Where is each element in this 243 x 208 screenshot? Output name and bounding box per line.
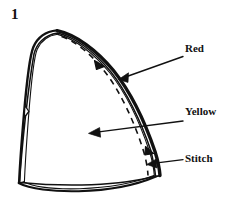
panel-inner-outline bbox=[20, 33, 156, 185]
callout-label-yellow: Yellow bbox=[185, 105, 216, 117]
callout-leader-red bbox=[119, 57, 184, 83]
bottom-right-corner-tick bbox=[156, 176, 160, 177]
bottom-left-corner-tick bbox=[19, 182, 24, 183]
callout-label-red: Red bbox=[185, 42, 204, 54]
figure-canvas: 1 bbox=[0, 0, 243, 208]
panel-line-drawing bbox=[0, 0, 243, 208]
callout-label-stitch: Stitch bbox=[185, 152, 213, 164]
